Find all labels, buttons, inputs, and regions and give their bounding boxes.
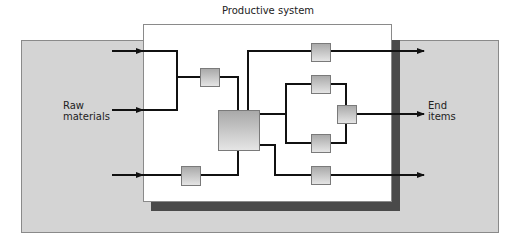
diagram-title: Productive system	[218, 5, 318, 16]
system-shadow-right	[392, 40, 400, 211]
process-node	[312, 44, 331, 62]
raw-materials-label: Raw materials	[63, 100, 110, 122]
process-node	[182, 167, 201, 186]
process-node	[312, 76, 331, 94]
productive-system-diagram	[0, 0, 519, 244]
system-shadow-bottom	[151, 202, 400, 211]
process-node	[201, 69, 220, 87]
process-node	[312, 135, 331, 153]
process-node	[312, 167, 331, 185]
end-items-label: End items	[428, 100, 456, 122]
process-node-main	[219, 111, 260, 151]
process-node	[338, 106, 357, 124]
